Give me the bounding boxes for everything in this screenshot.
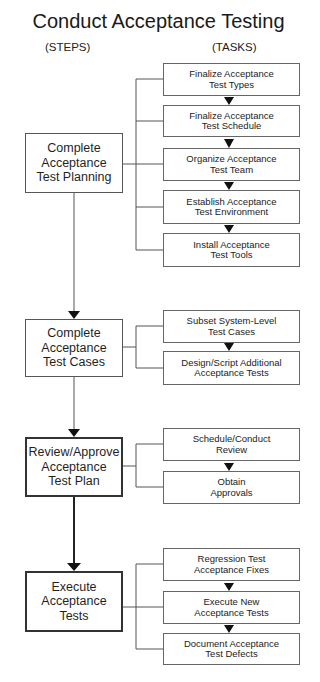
task-label: Finalize Acceptance Test Schedule (189, 111, 274, 132)
task-label: Schedule/Conduct Review (193, 434, 271, 455)
step-label: Complete Acceptance Test Cases (41, 326, 106, 370)
task-subset-system-level-test-cases: Subset System-Level Test Cases (163, 310, 300, 343)
step-complete-acceptance-test-planning: Complete Acceptance Test Planning (25, 133, 123, 193)
task-label: Document Acceptance Test Defects (184, 639, 279, 660)
step-label: Review/Approve Acceptance Test Plan (28, 445, 119, 489)
task-label: Finalize Acceptance Test Types (189, 69, 274, 90)
step-execute-acceptance-tests: Execute Acceptance Tests (25, 571, 123, 632)
task-install-test-tools: Install Acceptance Test Tools (163, 233, 300, 267)
task-document-test-defects: Document Acceptance Test Defects (163, 633, 300, 665)
task-label: Execute New Acceptance Tests (194, 597, 268, 618)
task-label: Subset System-Level Test Cases (187, 316, 277, 337)
task-label: Organize Acceptance Test Team (186, 154, 276, 175)
task-execute-new-tests: Execute New Acceptance Tests (163, 591, 300, 624)
task-label: Install Acceptance Test Tools (193, 240, 270, 261)
task-organize-test-team: Organize Acceptance Test Team (163, 148, 300, 181)
step-complete-acceptance-test-cases: Complete Acceptance Test Cases (25, 319, 123, 377)
task-obtain-approvals: Obtain Approvals (163, 471, 300, 504)
task-schedule-conduct-review: Schedule/Conduct Review (163, 428, 300, 461)
step-review-approve-test-plan: Review/Approve Acceptance Test Plan (25, 437, 123, 497)
task-finalize-test-types: Finalize Acceptance Test Types (163, 63, 300, 96)
task-label: Obtain Approvals (210, 477, 252, 498)
step-label: Execute Acceptance Tests (41, 580, 106, 624)
task-label: Regression Test Acceptance Fixes (194, 554, 269, 575)
step-label: Complete Acceptance Test Planning (36, 141, 111, 185)
task-design-script-additional-tests: Design/Script Additional Acceptance Test… (163, 351, 300, 385)
task-finalize-test-schedule: Finalize Acceptance Test Schedule (163, 105, 300, 137)
task-regression-test-fixes: Regression Test Acceptance Fixes (163, 548, 300, 581)
task-label: Establish Acceptance Test Environment (186, 197, 276, 218)
task-label: Design/Script Additional Acceptance Test… (181, 358, 281, 379)
task-establish-test-environment: Establish Acceptance Test Environment (163, 190, 300, 224)
